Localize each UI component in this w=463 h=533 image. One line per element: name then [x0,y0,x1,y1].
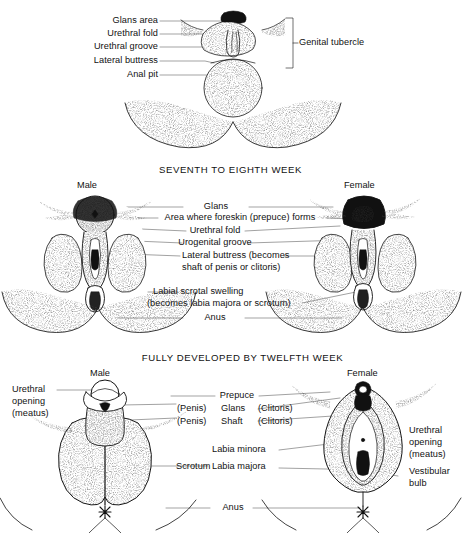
panel1-label-urethral-fold: Urethral fold [32,28,158,40]
panel3-male-figure [30,380,186,533]
panel3-label-shaft: Shaft [221,416,243,428]
panel3-left-label-opening: opening [12,396,45,408]
panel2-female-label: Female [344,180,375,190]
panel3-label-penis-shaft: (Penis) [177,416,206,428]
panel1-label-glans-area: Glans area [32,15,158,27]
panel2-label-labial-scrotal-line2: (becomes labia majora or scrotum) [147,298,291,310]
panel3-right-label-meatus: (meatus) [409,449,446,461]
panel3-right-label-urethral: Urethral [409,425,442,437]
panel2-label-labial-scrotal-line1: Labial scrotal swelling [153,286,244,298]
panel1-label-anal-pit: Anal pit [32,69,158,81]
panel3-label-labia-majora: Labia majora [212,461,266,473]
panel3-label-anus: Anus [213,502,253,514]
panel2-label-urethral-fold: Urethral fold [180,225,250,237]
diagram-canvas: Glans area Urethral fold Urethral groove… [0,0,463,533]
panel3-left-label-meatus: (meatus) [12,408,49,420]
panel2-label-glans: Glans [185,201,247,213]
panel3-label-prepuce: Prepuce [214,390,260,402]
panel1-label-urethral-groove: Urethral groove [32,41,158,53]
panel1-label-genital-tubercle: Genital tubercle [299,37,364,49]
panel3-left-label-urethral: Urethral [12,384,45,396]
panel3-male-label: Male [90,368,110,378]
panel3-label-clitoris-shaft: (Clitoris) [258,416,293,428]
panel3-label-glans: Glans [221,403,245,415]
panel2-label-anus: Anus [186,312,244,324]
panel3-female-label: Female [347,368,378,378]
panel3-label-labia-minora: Labia minora [212,444,266,456]
panel3-label-penis-glans: (Penis) [177,403,206,415]
panel3-label-clitoris-glans: (Clitoris) [258,403,293,415]
panel3-title: FULLY DEVELOPED BY TWELFTH WEEK [130,352,355,363]
panel2-label-lateral-buttress-line1: Lateral buttress (becomes [182,250,289,262]
panel3-right-label-opening: opening [409,437,442,449]
panel3-right-label-vestibular: Vestibular [409,466,450,478]
panel2-title: SEVENTH TO EIGHTH WEEK [133,164,328,175]
panel3-label-scrotum: Scrotum [176,461,211,473]
panel1-figure [181,11,285,117]
panel2-label-lateral-buttress-line2: shaft of penis or clitoris) [182,262,280,274]
panel1-label-lateral-buttress: Lateral buttress [32,55,158,67]
panel2-male-label: Male [77,180,97,190]
panel2-label-foreskin-area: Area where foreskin (prepuce) forms [150,212,330,224]
panel2-male-figure [33,196,152,312]
panel3-right-label-bulb: bulb [409,478,427,490]
genital-tubercle-bracket [286,18,298,68]
panel2-label-urogenital-groove: Urogenital groove [176,237,254,249]
